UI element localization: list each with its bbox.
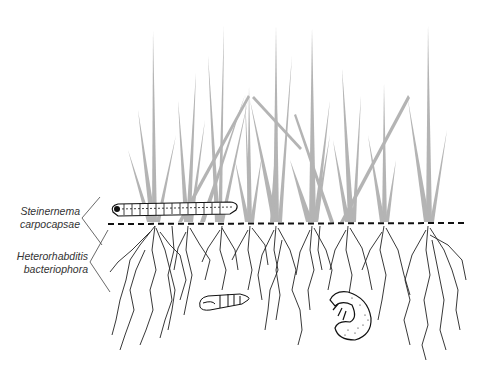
- roots-icon: [110, 226, 466, 360]
- bracket-heterorhabditis: [90, 230, 110, 292]
- label-steinernema: Steinernema carpocapsae: [10, 205, 80, 231]
- label-steinernema-genus: Steinernema: [10, 205, 80, 218]
- illustration: [0, 0, 490, 381]
- label-brackets: [82, 197, 110, 292]
- diagram-canvas: Steinernema carpocapsae Heterorhabditis …: [0, 0, 490, 381]
- grub-icon: [330, 292, 371, 340]
- grass-icon: [128, 25, 447, 222]
- label-heterorhabditis-genus: Heterorhabditis: [6, 250, 88, 263]
- label-heterorhabditis: Heterorhabditis bacteriophora: [6, 250, 88, 276]
- soil-line: [108, 223, 468, 224]
- label-steinernema-species: carpocapsae: [10, 218, 80, 231]
- caterpillar-icon: [112, 202, 237, 216]
- pupa-icon: [200, 294, 249, 310]
- label-heterorhabditis-species: bacteriophora: [6, 263, 88, 276]
- bracket-steinernema: [82, 197, 102, 245]
